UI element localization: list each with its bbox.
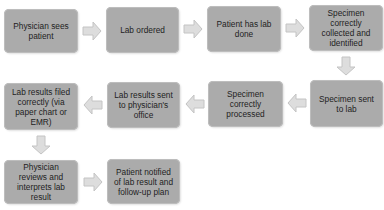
step-label: Specimen correctly collected and identif…: [314, 8, 378, 48]
arrow-down-icon: [31, 135, 51, 155]
step-label: Specimen correctly processed: [213, 89, 278, 119]
step-lab-ordered: Lab ordered: [106, 7, 179, 53]
arrow-right-icon: [285, 18, 305, 38]
step-specimen-sent-to-lab: Specimen sent to lab: [310, 80, 383, 127]
step-physician-sees-patient: Physician sees patient: [4, 9, 78, 53]
arrow-right-icon: [83, 172, 103, 192]
step-patient-notified: Patient notified of lab result and follo…: [107, 159, 180, 204]
arrow-down-icon: [336, 56, 356, 76]
arrow-left-icon: [83, 95, 103, 115]
arrow-right-icon: [183, 19, 203, 39]
step-label: Lab results filed correctly (via paper c…: [9, 87, 73, 127]
step-label: Lab ordered: [120, 25, 165, 35]
step-specimen-processed: Specimen correctly processed: [208, 81, 283, 127]
step-label: Physician sees patient: [9, 21, 73, 41]
step-specimen-collected: Specimen correctly collected and identif…: [309, 5, 383, 51]
arrow-left-icon: [185, 94, 205, 114]
step-label: Physician reviews and interprets lab res…: [9, 162, 73, 202]
step-label: Lab results sent to physician's office: [112, 90, 175, 120]
step-label: Patient has lab done: [212, 19, 276, 39]
step-patient-has-lab-done: Patient has lab done: [207, 6, 281, 52]
step-physician-reviews: Physician reviews and interprets lab res…: [4, 160, 78, 204]
step-lab-results-filed: Lab results filed correctly (via paper c…: [4, 83, 78, 130]
arrow-left-icon: [287, 93, 307, 113]
step-lab-results-sent: Lab results sent to physician's office: [107, 82, 180, 128]
step-label: Specimen sent to lab: [315, 94, 378, 114]
arrow-right-icon: [82, 21, 102, 41]
step-label: Patient notified of lab result and follo…: [112, 167, 175, 197]
